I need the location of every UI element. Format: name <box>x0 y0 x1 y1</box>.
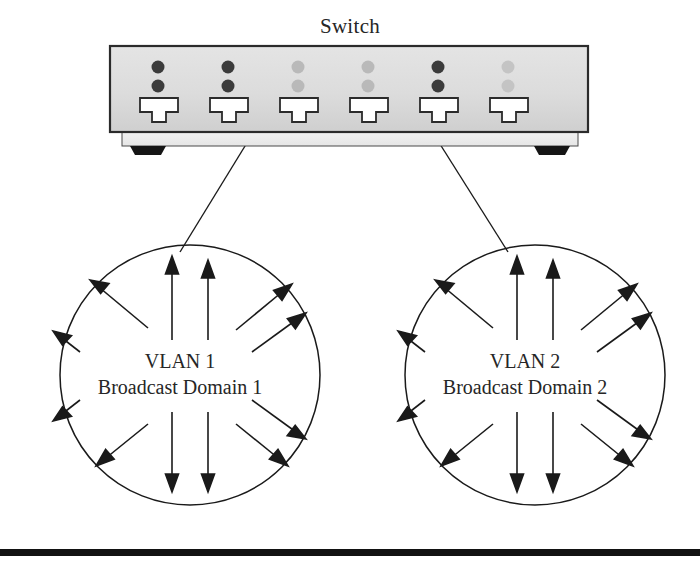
vlan2-text-block: VLAN 2 Broadcast Domain 2 <box>400 348 650 401</box>
arrow-upper-right-a <box>236 284 292 330</box>
connector-lines <box>180 133 508 252</box>
arrow-lower-left-a <box>53 400 80 421</box>
arrow-up-a <box>166 256 179 340</box>
led-port4-top <box>362 61 375 74</box>
arrow-lower-right-b <box>581 424 633 466</box>
connector-switch-to-vlan1 <box>180 133 253 252</box>
led-port5-bottom <box>432 80 445 93</box>
arrow-lower-left-b <box>96 424 148 466</box>
switch-foot-right <box>534 146 570 155</box>
led-port6-top <box>502 61 515 74</box>
arrow-down-b <box>547 412 560 492</box>
led-port1-top <box>152 61 165 74</box>
arrow-upper-right-a <box>581 284 637 330</box>
arrow-up-b <box>202 260 215 340</box>
switch-title-label: Switch <box>0 14 700 39</box>
vlan2-name: VLAN 2 <box>490 350 561 372</box>
led-port6-bottom <box>502 80 515 93</box>
led-port2-top <box>222 61 235 74</box>
arrow-lower-left-a <box>398 400 425 421</box>
arrow-down-a <box>511 412 524 492</box>
arrow-lower-left-b <box>441 424 493 466</box>
led-port5-top <box>432 61 445 74</box>
led-port3-top <box>292 61 305 74</box>
switch-foot-left <box>130 146 166 155</box>
arrow-lower-right-b <box>236 424 288 466</box>
led-port2-bottom <box>222 80 235 93</box>
bottom-rule <box>0 549 700 556</box>
led-port1-bottom <box>152 80 165 93</box>
vlan1-text-block: VLAN 1 Broadcast Domain 1 <box>55 348 305 401</box>
diagram-canvas <box>0 0 700 562</box>
vlan2-broadcast-domain-name: Broadcast Domain 2 <box>400 374 650 400</box>
arrow-up-a <box>511 256 524 340</box>
arrow-upper-left-a <box>435 280 493 328</box>
vlan-broadcast-domain-diagram: Switch VLAN 1 Broadcast Domain 1 VLAN 2 … <box>0 0 700 562</box>
arrow-lower-right-a <box>597 400 651 439</box>
arrow-upper-right-b <box>252 313 306 352</box>
led-port4-bottom <box>362 80 375 93</box>
vlan1-broadcast-domain-name: Broadcast Domain 1 <box>55 374 305 400</box>
switch-device[interactable] <box>110 46 588 155</box>
vlan1-name: VLAN 1 <box>145 350 216 372</box>
arrow-lower-right-a <box>252 400 306 439</box>
arrow-down-a <box>166 412 179 492</box>
arrow-upper-left-a <box>90 280 148 328</box>
arrow-upper-right-b <box>597 313 651 352</box>
led-port3-bottom <box>292 80 305 93</box>
arrow-down-b <box>202 412 215 492</box>
connector-switch-to-vlan2 <box>433 133 508 252</box>
arrow-up-b <box>547 260 560 340</box>
